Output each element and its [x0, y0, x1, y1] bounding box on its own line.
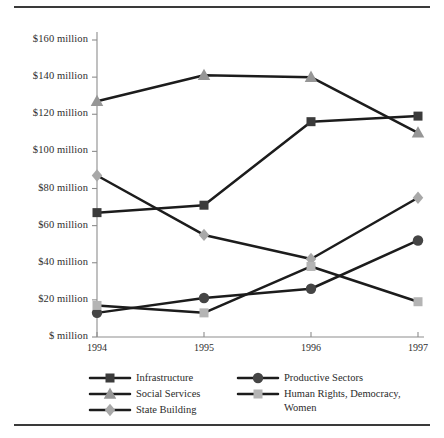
figure-container: $160 million$140 million$120 million$100…	[0, 0, 444, 438]
x-axis-tick-label: 1996	[286, 343, 336, 353]
y-axis-tick-label: $20 million	[0, 294, 88, 305]
data-point-marker	[105, 404, 116, 416]
data-point-marker	[92, 169, 103, 181]
legend-entry[interactable]: Productive Sectors	[236, 371, 436, 386]
legend-entry[interactable]: Infrastructure	[88, 371, 238, 386]
legend-marker-icon	[88, 403, 132, 417]
x-axis-tick-label: 1994	[72, 343, 122, 353]
data-point-marker	[199, 229, 210, 241]
y-axis-tick-label: $140 million	[0, 71, 88, 82]
data-point-marker	[93, 301, 102, 310]
plot-area: $160 million$140 million$120 million$100…	[0, 14, 444, 344]
legend-column-left: InfrastructureSocial ServicesState Build…	[88, 371, 238, 419]
data-point-marker	[307, 117, 316, 126]
legend-marker-icon	[88, 387, 132, 401]
x-axis-tick-label: 1997	[393, 343, 443, 353]
y-axis-tick-label: $160 million	[0, 34, 88, 45]
series-state-building	[92, 169, 424, 265]
data-point-marker	[253, 373, 263, 383]
legend-label: Productive Sectors	[284, 371, 363, 385]
x-axis-tick-label: 1995	[179, 343, 229, 353]
y-axis-tick-label: $100 million	[0, 145, 88, 156]
y-axis-tick-label: $80 million	[0, 183, 88, 194]
series-human-rights-democracy-women	[93, 262, 423, 317]
top-horizontal-rule	[14, 6, 430, 8]
data-point-marker	[200, 308, 209, 317]
y-axis-tick-label: $60 million	[0, 220, 88, 231]
data-point-marker	[414, 297, 423, 306]
data-point-marker	[307, 262, 316, 271]
legend-marker-icon	[236, 371, 280, 385]
legend-label-line2: Women	[284, 401, 316, 415]
data-point-marker	[413, 235, 423, 245]
data-point-marker	[414, 112, 423, 121]
data-point-marker	[106, 374, 115, 383]
series-social-services	[91, 69, 425, 138]
data-point-marker	[306, 284, 316, 294]
legend-marker-icon	[88, 371, 132, 385]
data-point-marker	[254, 390, 263, 399]
data-point-marker	[93, 208, 102, 217]
data-point-marker	[199, 293, 209, 303]
legend-column-right: Productive SectorsHuman Rights, Democrac…	[236, 371, 436, 417]
legend-entry[interactable]: Human Rights, Democracy,Women	[236, 387, 436, 416]
y-axis-tick-label: $120 million	[0, 108, 88, 119]
legend-label: State Building	[136, 403, 196, 417]
chart-axes	[92, 32, 424, 337]
legend-label: Human Rights, Democracy,	[284, 387, 401, 401]
legend-entry[interactable]: Social Services	[88, 387, 238, 402]
data-point-marker	[413, 192, 424, 204]
data-point-marker	[200, 201, 209, 210]
legend-entry[interactable]: State Building	[88, 403, 238, 418]
bottom-horizontal-rule	[14, 424, 430, 426]
legend-label: Infrastructure	[136, 371, 193, 385]
y-axis-tick-label: $ million	[0, 331, 88, 342]
legend-label: Social Services	[136, 387, 200, 401]
y-axis-tick-label: $40 million	[0, 257, 88, 268]
chart-legend: InfrastructureSocial ServicesState Build…	[88, 371, 428, 421]
legend-marker-icon	[236, 387, 280, 401]
